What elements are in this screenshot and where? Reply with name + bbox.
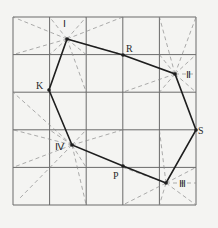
dashed-ray	[67, 39, 86, 92]
dashed-ray	[159, 17, 175, 74]
grid-diagram	[0, 0, 218, 228]
dashed-ray	[159, 130, 166, 183]
dashed-ray	[67, 17, 86, 39]
dashed-ray	[67, 17, 123, 39]
dashed-ray	[13, 17, 67, 39]
label-R: R	[126, 44, 133, 54]
dashed-ray	[123, 74, 175, 92]
dashed-ray	[13, 39, 67, 55]
label-S: S	[198, 126, 204, 136]
diagram-stage: Ⅰ R Ⅱ S Ⅲ P Ⅳ K	[0, 0, 218, 228]
label-K: K	[36, 81, 43, 91]
label-III: Ⅲ	[179, 179, 186, 189]
vertex-dot	[65, 37, 69, 41]
dashed-ray	[72, 130, 123, 145]
label-II: Ⅱ	[186, 70, 191, 80]
label-IV: Ⅳ	[55, 142, 64, 152]
label-I: Ⅰ	[63, 19, 66, 29]
vertex-dot	[121, 164, 125, 168]
dashed-ray	[159, 183, 166, 205]
vertex-dot	[173, 72, 177, 76]
dashed-ray	[72, 145, 86, 205]
dashed-ray	[20, 145, 72, 198]
label-P: P	[113, 171, 119, 181]
vertex-dot	[47, 88, 51, 92]
dashed-rays	[13, 17, 196, 205]
vertex-dot	[70, 143, 74, 147]
dashed-ray	[175, 17, 196, 74]
vertex-dot	[164, 181, 168, 185]
vertex-dot	[121, 53, 125, 57]
